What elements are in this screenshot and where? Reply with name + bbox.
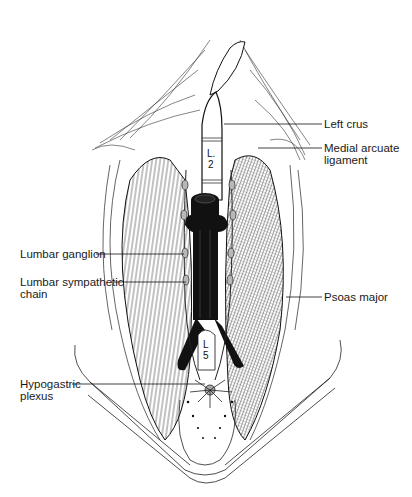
svg-text:5: 5 xyxy=(203,350,209,361)
psoas-left xyxy=(122,158,192,441)
label-hypogastric-plexus: Hypogastric plexus xyxy=(20,378,81,402)
psoas-right xyxy=(225,156,283,440)
diaphragm xyxy=(92,40,310,160)
sacrum xyxy=(179,400,236,465)
label-medial-arcuate-ligament: Medial arcuate ligament xyxy=(324,142,399,166)
anatomy-figure: L. 2 L 5 xyxy=(0,0,412,497)
label-left-crus: Left crus xyxy=(324,118,368,130)
label-psoas-major: Psoas major xyxy=(324,291,388,303)
vertebra-label-l5: L xyxy=(203,339,209,350)
vertebral-column: L. 2 xyxy=(202,92,222,200)
label-lumbar-ganglion: Lumbar ganglion xyxy=(20,248,106,260)
label-lumbar-sympathetic-chain: Lumbar sympathetic chain xyxy=(20,276,124,300)
svg-text:2: 2 xyxy=(208,159,214,170)
vertebra-label-l2: L. xyxy=(207,148,215,159)
